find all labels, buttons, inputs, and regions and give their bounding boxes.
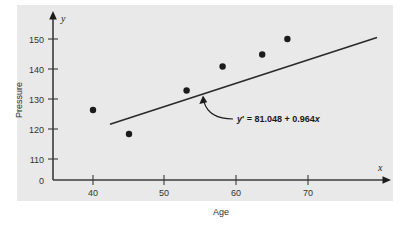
x-axis-symbol: x [377, 162, 383, 173]
x-tick-label-60: 60 [231, 188, 241, 198]
regression-equation: y′ = 81.048 + 0.964x [236, 114, 321, 124]
plot-canvas: 150 140 130 120 110 0 40 50 60 70 y x Ag… [0, 0, 410, 225]
x-tick-label-50: 50 [159, 188, 169, 198]
x-axis-arrow-icon [383, 176, 392, 184]
annotation-pointer [199, 96, 233, 120]
y-tick-label-120: 120 [29, 125, 44, 135]
y-tick-label-130: 130 [29, 95, 44, 105]
x-axis-tick-labels: 40 50 60 70 [88, 188, 313, 198]
x-axis [53, 176, 391, 184]
data-point [259, 51, 265, 57]
x-tick-label-70: 70 [303, 188, 313, 198]
data-point [126, 131, 132, 137]
y-axis-tick-labels: 150 140 130 120 110 0 [29, 35, 44, 186]
data-point [284, 36, 290, 42]
y-axis-title: Pressure [14, 82, 24, 118]
y-tick-label-110: 110 [30, 155, 44, 165]
y-tick-label-150: 150 [29, 35, 44, 45]
regression-line [110, 38, 377, 125]
scatter-plot-figure: 150 140 130 120 110 0 40 50 60 70 y x Ag… [0, 0, 410, 225]
x-axis-title: Age [213, 207, 229, 217]
annotation-arrow-icon [199, 96, 207, 105]
annotation-leader-curve [204, 102, 233, 119]
equation-body: = 81.048 + 0.964 [244, 114, 315, 124]
y-tick-label-140: 140 [29, 65, 44, 75]
equation-x-symbol: x [314, 114, 321, 124]
data-point [219, 63, 225, 69]
x-tick-label-40: 40 [88, 188, 98, 198]
data-point [183, 87, 189, 93]
y-axis [49, 11, 57, 180]
y-axis-symbol: y [60, 13, 66, 24]
y-axis-origin-label: 0 [39, 176, 44, 186]
data-point [90, 107, 96, 113]
y-axis-arrow-icon [49, 11, 57, 20]
